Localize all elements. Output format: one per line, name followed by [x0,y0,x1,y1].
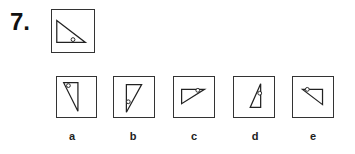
option-label-a[interactable]: a [62,130,82,142]
triangle-icon [57,77,96,117]
option-b[interactable] [113,76,155,118]
option-e[interactable] [292,76,334,118]
question-number: 7. [10,8,30,36]
stem-figure [51,9,95,53]
option-d[interactable] [233,76,275,118]
option-label-d[interactable]: d [245,130,265,142]
triangle-icon [174,77,214,117]
triangle-icon [52,10,94,52]
triangle-icon [293,77,333,117]
option-label-c[interactable]: c [184,130,204,142]
option-c[interactable] [173,76,215,118]
option-a[interactable] [56,76,97,118]
option-label-b[interactable]: b [123,130,143,142]
option-label-e[interactable]: e [303,130,323,142]
triangle-icon [114,77,154,117]
triangle-icon [234,77,274,117]
